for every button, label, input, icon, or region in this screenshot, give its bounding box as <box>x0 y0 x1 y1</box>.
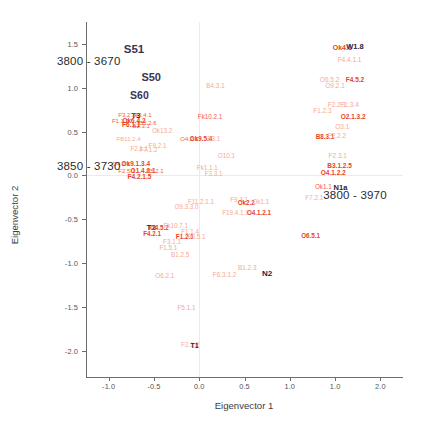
data-point-label: O9.3.3.0 <box>174 203 198 209</box>
data-point-label: Ok1.1 <box>252 199 269 205</box>
data-point-label: B1.2.3 <box>238 265 256 271</box>
data-point-label: F2.2.2 <box>328 132 346 139</box>
data-point-label: F19.4.1.1 <box>222 209 249 215</box>
y-tick-label: -2.0 <box>65 346 78 355</box>
data-point-label: O4.1.2.1 <box>247 210 271 216</box>
x-tick-label: 0.5 <box>239 382 250 391</box>
data-point-label: B3.1 <box>207 136 220 142</box>
annotation-cluster-left-top: 3800 - 3670 <box>57 55 121 67</box>
data-point-label: F6.3.1.2 <box>213 272 236 278</box>
data-point-label: O6.5.1 <box>301 233 320 239</box>
y-tick-label: -0.5 <box>65 215 78 224</box>
data-point-label: S50 <box>141 72 161 83</box>
x-tick-label: -1.0 <box>102 382 115 391</box>
data-point-label: B1.2.5 <box>171 252 189 258</box>
y-tick-mark <box>82 307 86 308</box>
data-point-label: N2 <box>262 270 272 278</box>
x-tick-mark <box>245 377 246 381</box>
x-tick-mark <box>335 377 336 381</box>
figure-caption <box>0 423 437 437</box>
x-tick-mark <box>290 377 291 381</box>
data-point-label: O6.2.1 <box>155 273 174 279</box>
x-axis-title: Eigenvector 1 <box>215 400 274 411</box>
data-point-label: B4.3.1 <box>206 83 224 89</box>
data-point-label: F1.2.3 <box>313 108 331 115</box>
data-point-label: F4.2.1 <box>143 231 161 237</box>
y-tick-mark <box>82 351 86 352</box>
data-point-label: F7.2.1 <box>305 195 323 201</box>
eigenvector-scatter-figure: S51S50S60T3F3.2.1F3.4.1F1.1.2Ok6.4.2O5.2… <box>0 0 437 437</box>
x-tick-label: 1.0 <box>284 382 295 391</box>
data-point-label: O2.1.3.2 <box>341 114 366 121</box>
x-tick-label: 2.0 <box>375 382 386 391</box>
y-tick-label: -1.5 <box>65 302 78 311</box>
data-point-label: B2.3.1 <box>133 123 150 129</box>
y-tick-mark <box>82 132 86 133</box>
x-tick-mark <box>199 377 200 381</box>
y-tick-label: 0.0 <box>67 171 78 180</box>
data-point-label: O4.1.2.2 <box>321 170 346 177</box>
data-point-label: F4.4.1.1 <box>338 57 362 64</box>
x-tick-label: -0.5 <box>147 382 160 391</box>
x-tick-mark <box>154 377 155 381</box>
data-point-label: O10.1 <box>218 152 235 158</box>
data-point-label: F2.3.1 <box>329 152 347 159</box>
y-tick-mark <box>82 88 86 89</box>
data-point-label: S51 <box>124 44 144 56</box>
y-tick-mark <box>82 175 86 176</box>
data-point-label: S60 <box>130 90 149 101</box>
data-point-label: O9.2.1 <box>325 83 345 90</box>
y-tick-mark <box>82 44 86 45</box>
x-tick-label: 0.0 <box>194 382 205 391</box>
data-point-label: F7.1.2 <box>140 146 158 152</box>
y-tick-label: 0.5 <box>67 127 78 136</box>
x-tick-mark <box>109 377 110 381</box>
x-tick-label: 1.0 <box>330 382 341 391</box>
annotation-cluster-left-bottom: 3850 - 3730 <box>57 160 121 172</box>
y-tick-mark <box>82 263 86 264</box>
data-point-label: F4.2.1.5 <box>127 174 151 181</box>
y-tick-mark <box>82 219 86 220</box>
annotation-cluster-right: 3800 - 3970 <box>323 189 387 201</box>
data-point-label: F1.3.4 <box>340 102 358 109</box>
y-tick-label: 1.5 <box>67 39 78 48</box>
data-point-label: Ok13.2 <box>152 128 172 134</box>
y-axis-title: Eigenvector 2 <box>9 186 20 245</box>
x-tick-mark <box>380 377 381 381</box>
data-point-label: W1.8 <box>346 43 364 51</box>
data-point-label: O3.1 <box>335 123 349 130</box>
data-point-label: F3.3.1 <box>205 171 223 177</box>
data-point-label: Fk10.2.1 <box>198 114 223 120</box>
data-point-label: T1 <box>191 341 199 348</box>
y-tick-label: 1.0 <box>67 83 78 92</box>
data-point-label: F4.5.2 <box>346 77 364 84</box>
data-point-label: B3.5.1 <box>187 234 205 240</box>
data-point-label: FB11.2.4 <box>117 136 141 142</box>
y-axis-line <box>86 22 87 377</box>
y-tick-label: -1.0 <box>65 259 78 268</box>
data-point-label: F5.1.1 <box>177 305 195 311</box>
